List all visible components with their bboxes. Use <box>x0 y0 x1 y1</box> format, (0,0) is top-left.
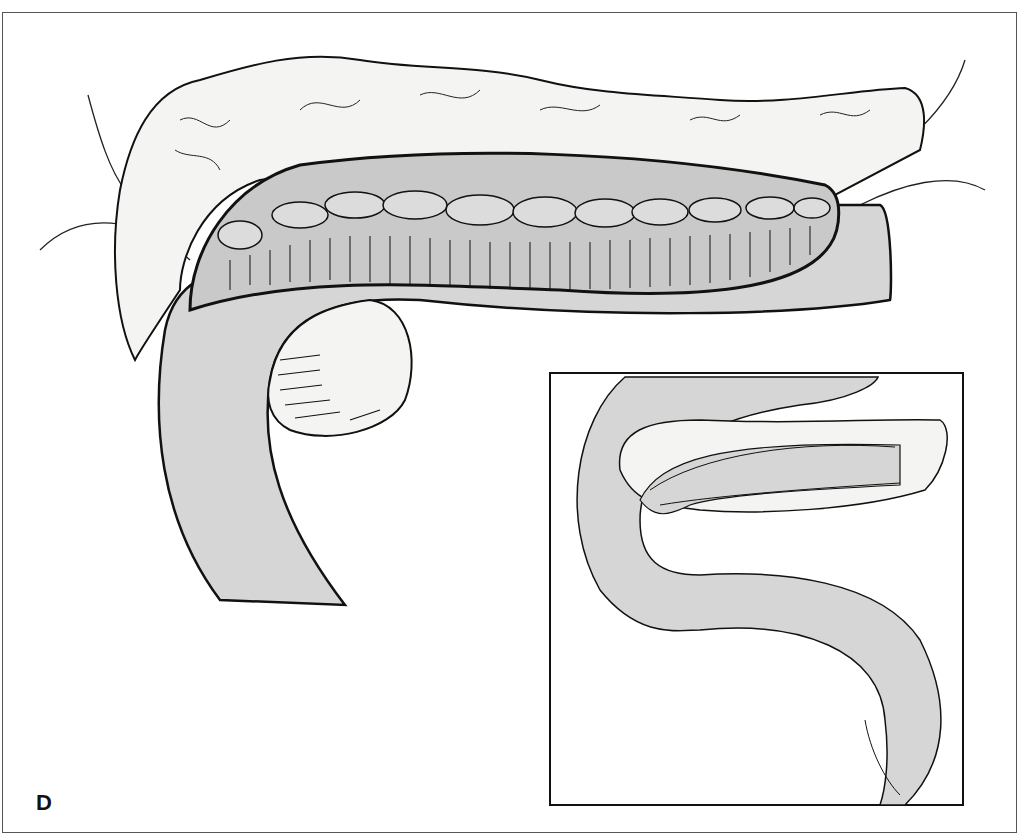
panel-label: D <box>36 790 52 816</box>
main-illustration <box>0 0 1019 835</box>
anastomosis-opening <box>190 153 839 310</box>
